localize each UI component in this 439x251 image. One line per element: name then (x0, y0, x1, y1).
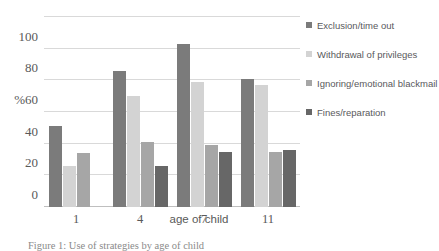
plot-area: 10080%6040200 (44, 17, 300, 207)
bar (77, 153, 90, 207)
figure-caption: Figure 1: Use of strategies by age of ch… (28, 240, 439, 251)
bar (141, 142, 154, 207)
bar (269, 152, 282, 207)
bar (177, 44, 190, 207)
x-axis-title: age of child (144, 210, 254, 228)
bar (205, 145, 218, 207)
legend-swatch-icon (306, 22, 312, 28)
bar (255, 85, 268, 207)
bar (127, 96, 140, 207)
bar-group (108, 17, 172, 207)
legend-label: Ignoring/emotional blackmail (317, 78, 437, 89)
legend-swatch-icon (306, 51, 312, 57)
y-tick-label: 40 (25, 124, 38, 137)
bar-groups (44, 17, 300, 207)
bar (191, 82, 204, 207)
chart-legend: Exclusion/time outWithdrawal of privileg… (306, 12, 439, 128)
bar-group (236, 17, 300, 207)
legend-item: Withdrawal of privileges (306, 41, 439, 67)
bar (113, 71, 126, 207)
y-tick-label: 0 (32, 188, 39, 201)
y-tick-label: %60 (14, 93, 38, 106)
legend-item: Fines/reparation (306, 99, 439, 125)
bar (241, 79, 254, 207)
chart-figure: 10080%6040200 14711 age of child Exclusi… (0, 0, 439, 251)
legend-label: Exclusion/time out (317, 20, 394, 31)
x-tick-label: 1 (44, 210, 108, 228)
legend-label: Fines/reparation (317, 107, 386, 118)
bar-group (44, 17, 108, 207)
y-tick-label: 80 (25, 61, 38, 74)
legend-swatch-icon (306, 109, 312, 115)
legend-item: Ignoring/emotional blackmail (306, 70, 439, 96)
y-tick-label: 100 (19, 29, 39, 42)
bar-group (172, 17, 236, 207)
legend-label: Withdrawal of privileges (317, 49, 417, 60)
legend-swatch-icon (306, 80, 312, 86)
legend-item: Exclusion/time out (306, 12, 439, 38)
bar (63, 166, 76, 207)
bar (219, 152, 232, 207)
bar (155, 166, 168, 207)
bar (49, 126, 62, 207)
bar (283, 150, 296, 207)
y-tick-label: 20 (25, 156, 38, 169)
